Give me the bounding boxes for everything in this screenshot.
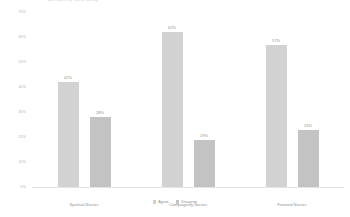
y-tick-label: 50% xyxy=(19,60,27,64)
bar-agree xyxy=(58,82,79,187)
legend-swatch-icon xyxy=(176,200,180,204)
bar-value-label: 57% xyxy=(256,39,296,43)
y-tick-label: 20% xyxy=(19,135,27,139)
x-axis-line xyxy=(32,187,344,188)
plot-area: 42%28%Spiritual Nurses62%19%Campaigning … xyxy=(32,12,344,187)
bar-disagree xyxy=(298,130,319,188)
bar-value-label: 28% xyxy=(80,111,120,115)
y-tick-label: 40% xyxy=(19,85,27,89)
bar-group: 42%28% xyxy=(32,12,136,187)
bar-value-label: 19% xyxy=(184,134,224,138)
bar-disagree xyxy=(194,140,215,188)
legend-label: Disagree xyxy=(181,200,197,204)
bar-group: 57%23% xyxy=(240,12,344,187)
bar-disagree xyxy=(90,117,111,187)
bar-value-label: 42% xyxy=(48,76,88,80)
bar-value-label: 23% xyxy=(288,124,328,128)
bar-value-label: 62% xyxy=(152,26,192,30)
bar-agree xyxy=(266,45,287,188)
chart-legend: AgreeDisagree xyxy=(0,200,350,204)
bar-agree xyxy=(162,32,183,187)
chart-title: Attitudes by nurse group xyxy=(48,0,98,2)
legend-label: Agree xyxy=(158,200,169,204)
y-tick-label: 30% xyxy=(19,110,27,114)
y-axis: 0%10%20%30%40%50%60%70% xyxy=(0,12,30,187)
y-tick-label: 10% xyxy=(19,160,27,164)
legend-item[interactable]: Disagree xyxy=(176,200,198,204)
bar-chart: Attitudes by nurse group 0%10%20%30%40%5… xyxy=(0,0,350,217)
bar-group: 62%19% xyxy=(136,12,240,187)
legend-item[interactable]: Agree xyxy=(153,200,169,204)
y-tick-label: 70% xyxy=(19,10,27,14)
legend-swatch-icon xyxy=(153,200,157,204)
y-tick-label: 60% xyxy=(19,35,27,39)
y-tick-label: 0% xyxy=(21,185,26,189)
